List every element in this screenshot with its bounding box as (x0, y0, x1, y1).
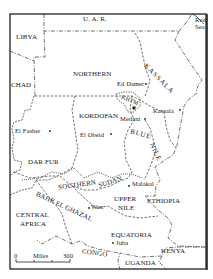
province-label-northern: NORTHERN (73, 70, 112, 78)
sea-label-sea: Sea (195, 23, 205, 31)
map-frame (10, 14, 206, 269)
city-label-juba: Juba (116, 239, 128, 247)
scale-label-miles: Miles (33, 252, 48, 260)
city-label-ed-damer: Ed Damer (117, 80, 144, 88)
province-label-darfur: DAR FUR (28, 158, 59, 166)
city-label-medani: Medani (120, 115, 140, 123)
country-label-kenya: KENYA (161, 247, 185, 255)
province-label-upper-nile: NILE (118, 204, 134, 212)
city-label-malakal: Malakal (132, 180, 154, 188)
country-label-uar: U. A. R. (83, 15, 107, 23)
country-label-africa: AFRICA (20, 220, 46, 228)
city-label-el-fasher: El Fasher (15, 127, 41, 135)
city-label-wan: Wan (91, 203, 103, 211)
scale-label-300: 300 (63, 252, 73, 260)
province-label-kordofan: KORDOFAN (79, 112, 118, 120)
country-label-uganda: UGANDA (125, 259, 156, 267)
scale-label-zero: 0 (14, 252, 17, 260)
sudan-map (0, 0, 213, 279)
country-label-chad: CHAD (11, 81, 31, 89)
country-label-libya: LIBYA (16, 33, 37, 41)
city-label-kassala: Kassala (153, 107, 174, 115)
province-label-upper: UPPER (114, 195, 136, 203)
country-label-central: CENTRAL (16, 211, 49, 219)
international-border (10, 14, 205, 270)
province-label-equatoria: EQUATORIA (111, 231, 152, 239)
city-label-el-obeid: El Obeid (80, 131, 104, 139)
country-label-ethiopia: ETHIOPIA (147, 197, 180, 205)
capital-marker (133, 107, 136, 110)
